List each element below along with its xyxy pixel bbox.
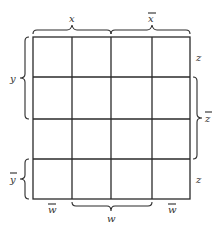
brace-bottom-w bbox=[72, 202, 152, 211]
label-y-bar: y bbox=[9, 174, 16, 185]
brace-top-xbar bbox=[111, 25, 190, 34]
karnaugh-map: x x y y z z z w w w bbox=[0, 0, 220, 233]
label-w-bar-right: w bbox=[168, 204, 177, 215]
label-z-bottom: z bbox=[195, 174, 202, 185]
brace-top-x bbox=[33, 25, 111, 34]
brace-left-ybar bbox=[20, 159, 29, 199]
label-z-bar: z bbox=[204, 113, 211, 124]
brace-left-y bbox=[20, 37, 29, 119]
label-x: x bbox=[69, 13, 75, 24]
label-w: w bbox=[107, 213, 116, 224]
brace-right-zbar bbox=[193, 77, 202, 159]
label-y: y bbox=[9, 73, 16, 84]
label-w-bar-left: w bbox=[48, 204, 57, 215]
label-x-bar: x bbox=[148, 13, 154, 24]
label-z-top: z bbox=[195, 52, 202, 63]
